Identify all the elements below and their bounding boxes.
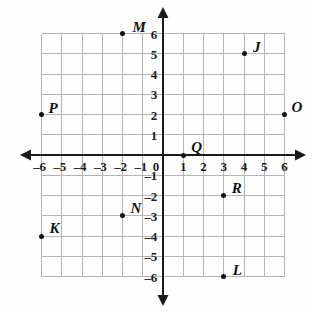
point-label-r: R bbox=[232, 181, 242, 196]
x-tick--5: –5 bbox=[53, 160, 66, 173]
x-tick--4: –4 bbox=[74, 160, 87, 173]
point-label-l: L bbox=[233, 263, 242, 278]
plotted-point-p bbox=[39, 112, 44, 117]
point-label-o: O bbox=[292, 100, 303, 115]
point-label-n: N bbox=[131, 201, 142, 216]
y-tick--5: –5 bbox=[144, 250, 157, 263]
coordinate-plane: –6–5–4–3–2–10123456654321–1–2–3–4–5–6 MJ… bbox=[0, 0, 312, 312]
x-tick-4: 4 bbox=[241, 160, 247, 173]
y-tick-5: 5 bbox=[151, 48, 157, 61]
x-tick-6: 6 bbox=[281, 160, 287, 173]
x-tick--3: –3 bbox=[94, 160, 107, 173]
y-tick--1: –1 bbox=[144, 169, 157, 182]
x-tick-3: 3 bbox=[221, 160, 227, 173]
axes bbox=[20, 7, 306, 306]
point-label-j: J bbox=[253, 40, 261, 55]
y-tick-1: 1 bbox=[151, 129, 157, 142]
plotted-point-o bbox=[282, 112, 287, 117]
x-tick-5: 5 bbox=[261, 160, 267, 173]
y-tick-3: 3 bbox=[151, 88, 157, 101]
plotted-point-m bbox=[120, 31, 125, 36]
plotted-point-j bbox=[242, 51, 247, 56]
y-tick--3: –3 bbox=[144, 210, 157, 223]
point-label-q: Q bbox=[191, 140, 202, 155]
y-tick--4: –4 bbox=[144, 230, 157, 243]
y-tick--6: –6 bbox=[144, 271, 157, 284]
x-tick--2: –2 bbox=[114, 160, 127, 173]
plotted-point-q bbox=[181, 153, 186, 158]
y-tick-2: 2 bbox=[151, 109, 157, 122]
y-tick-4: 4 bbox=[151, 68, 157, 81]
plotted-point-k bbox=[39, 234, 44, 239]
point-label-p: P bbox=[49, 101, 58, 116]
y-tick--2: –2 bbox=[144, 190, 157, 203]
point-label-k: K bbox=[50, 221, 60, 236]
point-label-m: M bbox=[133, 20, 146, 35]
y-tick-6: 6 bbox=[151, 28, 157, 41]
x-tick--6: –6 bbox=[33, 160, 46, 173]
x-tick-2: 2 bbox=[200, 160, 206, 173]
x-tick-1: 1 bbox=[180, 160, 186, 173]
